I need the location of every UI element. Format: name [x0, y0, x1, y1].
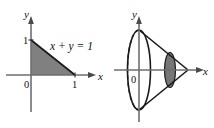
- left-figure-region-triangle: y x 0 1 1 x + y = 1: [6, 8, 103, 112]
- x-axis-arrowhead-icon: [88, 72, 96, 78]
- left-origin-label: 0: [24, 79, 29, 90]
- equation-label-x-plus-y-equals-1: x + y = 1: [49, 40, 93, 53]
- y-axis-arrowhead-icon: [28, 16, 34, 24]
- left-x-axis-label: x: [97, 70, 103, 82]
- right-figure-cone-solid: y x 0: [114, 8, 208, 122]
- figure-canvas: y x 0 1 1 x + y = 1 y x 0: [0, 0, 214, 128]
- left-y-axis-label: y: [23, 8, 29, 20]
- right-y-axis-arrowhead-icon: [136, 16, 142, 24]
- right-origin-label: 0: [131, 74, 136, 85]
- left-x-tick-label-1: 1: [72, 79, 77, 90]
- right-y-axis-label: y: [131, 8, 137, 20]
- right-x-axis-label: x: [202, 65, 208, 77]
- left-y-tick-label-1: 1: [23, 35, 28, 46]
